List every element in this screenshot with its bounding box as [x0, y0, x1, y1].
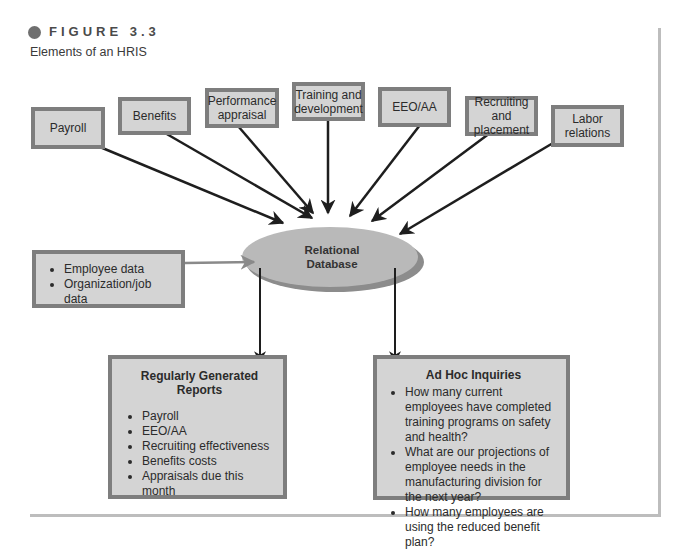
input-label: Recruiting and placement	[469, 95, 534, 137]
input-label: Training and development	[294, 88, 363, 116]
input-box-payroll: Payroll	[31, 107, 105, 149]
input-box-performance-appraisal: Performance appraisal	[205, 88, 279, 128]
arrow-recruiting	[372, 133, 490, 221]
input-label: Benefits	[133, 109, 176, 123]
reports-list: Payroll EEO/AA Recruiting effectiveness …	[124, 409, 275, 499]
input-label: EEO/AA	[392, 100, 437, 114]
list-item: How many current employees have complete…	[405, 385, 560, 445]
list-item: Organization/job data	[64, 277, 175, 307]
database-label-line1: Relational	[282, 243, 382, 257]
reports-title: Regularly Generated Reports	[124, 369, 275, 397]
arrow-performance	[238, 126, 313, 213]
input-box-labor-relations: Labor relations	[551, 105, 624, 147]
data-input-list: Employee data Organization/job data	[46, 262, 175, 307]
inquiries-box: Ad Hoc Inquiries How many current employ…	[373, 355, 570, 500]
input-label: Payroll	[50, 121, 87, 135]
input-box-benefits: Benefits	[118, 97, 191, 135]
list-item: How many employees are using the reduced…	[405, 505, 560, 550]
database-label: Relational Database	[282, 243, 382, 271]
database-label-line2: Database	[282, 257, 382, 271]
arrow-eeo	[350, 125, 420, 216]
arrow-data-input	[185, 262, 254, 263]
data-input-box: Employee data Organization/job data	[32, 250, 185, 308]
list-item: Employee data	[64, 262, 175, 277]
input-box-training-development: Training and development	[292, 82, 365, 121]
list-item: Appraisals due this month	[142, 469, 275, 499]
reports-box: Regularly Generated Reports Payroll EEO/…	[108, 355, 287, 499]
input-box-eeo-aa: EEO/AA	[378, 87, 451, 127]
list-item: What are our projections of employee nee…	[405, 445, 560, 505]
input-box-recruiting-placement: Recruiting and placement	[465, 96, 538, 136]
input-label: Performance appraisal	[208, 94, 277, 122]
list-item: Recruiting effectiveness	[142, 439, 275, 454]
list-item: Payroll	[142, 409, 275, 424]
list-item: Benefits costs	[142, 454, 275, 469]
inquiries-title: Ad Hoc Inquiries	[387, 368, 560, 382]
inquiries-list: How many current employees have complete…	[387, 385, 560, 550]
arrow-labor	[400, 143, 553, 234]
list-item: EEO/AA	[142, 424, 275, 439]
input-label: Labor relations	[555, 112, 620, 140]
